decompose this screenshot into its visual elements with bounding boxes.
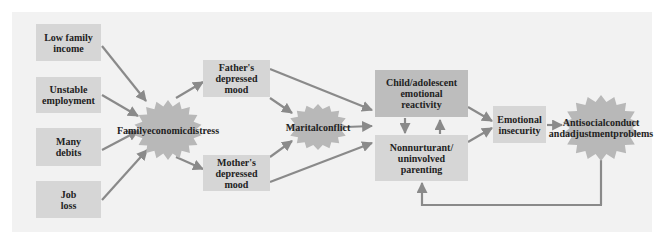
node-job-loss: Jobloss	[36, 181, 101, 218]
label-line: reactivity	[386, 99, 457, 110]
node-antisocial: Antisocialconduct andadjustmentproblems	[566, 102, 636, 154]
label-line: parenting	[390, 164, 453, 175]
label-line: emotional	[386, 88, 457, 99]
label-line: mood	[215, 84, 257, 95]
label-line: depressed	[215, 168, 257, 179]
label-line: Marital	[286, 122, 319, 133]
label-line: income	[44, 43, 93, 54]
arrow-low-income-to-distress	[102, 46, 146, 101]
label-line: Mother's	[215, 157, 257, 168]
arrow-distress-to-father	[176, 82, 203, 98]
label-line: Low family	[44, 32, 93, 43]
label-line: loss	[61, 200, 77, 211]
node-emotional-insecurity: Emotionalinsecurity	[493, 106, 546, 143]
node-family-distress: Familyeconomicdistress	[138, 108, 198, 152]
label-line: Job	[61, 189, 77, 200]
arrow-employment-to-distress	[102, 95, 138, 116]
arrow-jobloss-to-distress	[102, 150, 147, 200]
node-mother-mood: Mother'sdepressedmood	[203, 155, 270, 191]
label-line: depressed	[215, 73, 257, 84]
label-line: conflict	[319, 122, 351, 133]
arrow-parenting-to-insecurity	[468, 128, 492, 142]
label-line: Emotional	[497, 114, 541, 125]
node-child-reactivity: Child/adolescentemotionalreactivity	[375, 70, 468, 117]
node-father-mood: Father'sdepressedmood	[203, 60, 270, 97]
label-line: employment	[42, 95, 95, 106]
label-line: Nonnurturant/	[390, 142, 453, 153]
arrow-distress-to-mother	[176, 157, 203, 169]
label-line: debits	[56, 147, 82, 158]
label-line: uninvolved	[390, 153, 453, 164]
arrow-mother-to-marital	[270, 141, 292, 157]
label-line: economic	[147, 125, 187, 136]
arrow-father-to-child	[270, 69, 372, 110]
node-unstable-employment: Unstableemployment	[36, 77, 101, 113]
arrow-mother-to-parenting	[270, 143, 372, 182]
label-line: mood	[215, 179, 257, 190]
node-low-income: Low familyincome	[36, 24, 101, 61]
label-line: problems	[613, 128, 653, 139]
label-line: Unstable	[42, 84, 95, 95]
node-many-debits: Manydebits	[36, 128, 101, 166]
label-line: Many	[56, 136, 82, 147]
label-line: distress	[187, 125, 219, 136]
label-line: insecurity	[497, 125, 541, 136]
label-line: Antisocial	[563, 117, 606, 128]
label-line: Father's	[215, 62, 257, 73]
node-marital-conflict: Maritalconflict	[292, 110, 344, 144]
label-line: adjustment	[565, 128, 613, 139]
arrow-father-to-marital	[270, 98, 292, 113]
label-line: Child/adolescent	[386, 77, 457, 88]
arrow-child-to-insecurity	[468, 107, 492, 121]
node-parenting: Nonnurturant/uninvolvedparenting	[375, 135, 468, 181]
label-line: Family	[117, 125, 147, 136]
